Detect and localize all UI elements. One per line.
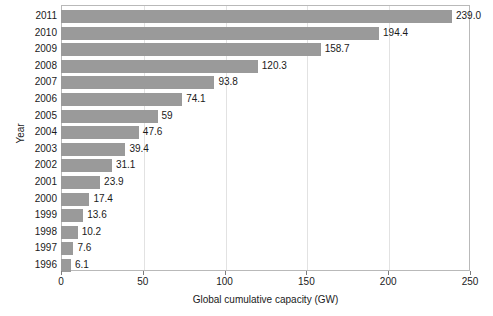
x-axis-tick-label: 100 (216, 276, 233, 287)
bar (61, 43, 321, 56)
x-axis-tick-label: 0 (58, 276, 64, 287)
bar-value-label: 120.3 (262, 59, 287, 72)
x-axis-tick-label: 150 (298, 276, 315, 287)
x-axis-tick-mark (225, 271, 226, 275)
x-axis-tick-mark (143, 271, 144, 275)
bar (61, 242, 73, 255)
bar-series: 239.0194.4158.7120.393.874.15947.639.431… (61, 5, 470, 271)
y-axis-tick-label: 1998 (0, 225, 57, 238)
bar-row: 74.1 (61, 91, 470, 109)
x-axis-ticks: 050100150200250 (61, 271, 470, 293)
y-axis-tick-label: 2011 (0, 9, 57, 22)
bar (61, 126, 139, 139)
bar (61, 76, 214, 89)
x-axis-tick-mark (388, 271, 389, 275)
bar-value-label: 39.4 (129, 142, 148, 155)
y-axis-tick-label: 2001 (0, 175, 57, 188)
x-axis-tick-label: 50 (137, 276, 148, 287)
bar-value-label: 59 (162, 109, 173, 122)
bar (61, 27, 379, 40)
y-axis-tick-label: 1999 (0, 208, 57, 221)
bar-row: 10.2 (61, 224, 470, 242)
bar-value-label: 239.0 (456, 9, 481, 22)
bar-row: 39.4 (61, 141, 470, 159)
y-axis-tick-labels: 2011201020092008200720062005200420032002… (0, 5, 57, 271)
x-axis-tick-label: 250 (462, 276, 479, 287)
bar (61, 176, 100, 189)
bar (61, 193, 89, 206)
bar-row: 31.1 (61, 157, 470, 175)
bar-row: 239.0 (61, 8, 470, 26)
bar-value-label: 194.4 (383, 26, 408, 39)
bar-row: 47.6 (61, 124, 470, 142)
bar (61, 10, 452, 23)
y-axis-tick-label: 2006 (0, 92, 57, 105)
y-axis-tick-label: 2003 (0, 142, 57, 155)
bar-value-label: 10.2 (82, 225, 101, 238)
y-axis-tick-label: 2007 (0, 75, 57, 88)
bar-row: 13.6 (61, 207, 470, 225)
bar (61, 159, 112, 172)
y-axis-tick-label: 2010 (0, 26, 57, 39)
bar-value-label: 93.8 (218, 75, 237, 88)
bar-row: 158.7 (61, 41, 470, 59)
y-axis-tick-label: 2005 (0, 109, 57, 122)
bar-chart: Year 20112010200920082007200620052004200… (0, 0, 493, 316)
bar-value-label: 17.4 (93, 192, 112, 205)
bar-value-label: 7.6 (77, 241, 91, 254)
y-axis-tick-label: 2004 (0, 125, 57, 138)
bar (61, 209, 83, 222)
y-axis-tick-label: 2002 (0, 158, 57, 171)
y-axis-tick-label: 1997 (0, 241, 57, 254)
y-axis-tick-label: 2008 (0, 59, 57, 72)
bar (61, 226, 78, 239)
bar-row: 59 (61, 108, 470, 126)
x-axis-tick-mark (470, 271, 471, 275)
bar-row: 194.4 (61, 25, 470, 43)
bar-row: 120.3 (61, 58, 470, 76)
bar-row: 7.6 (61, 240, 470, 258)
bar-value-label: 13.6 (87, 208, 106, 221)
bar-value-label: 6.1 (75, 258, 89, 271)
bar (61, 60, 258, 73)
bar-row: 17.4 (61, 191, 470, 209)
bar (61, 143, 125, 156)
x-axis-tick-mark (61, 271, 62, 275)
bar-value-label: 47.6 (143, 125, 162, 138)
x-axis-title: Global cumulative capacity (GW) (61, 294, 470, 305)
bar (61, 93, 182, 106)
y-axis-tick-label: 1996 (0, 258, 57, 271)
bar-row: 23.9 (61, 174, 470, 192)
x-axis-tick-mark (306, 271, 307, 275)
bar-value-label: 31.1 (116, 158, 135, 171)
bar (61, 110, 158, 123)
x-axis-tick-label: 200 (380, 276, 397, 287)
bar-value-label: 23.9 (104, 175, 123, 188)
bar-value-label: 74.1 (186, 92, 205, 105)
y-axis-tick-label: 2000 (0, 192, 57, 205)
y-axis-tick-label: 2009 (0, 42, 57, 55)
bar-row: 93.8 (61, 74, 470, 92)
bar-value-label: 158.7 (325, 42, 350, 55)
